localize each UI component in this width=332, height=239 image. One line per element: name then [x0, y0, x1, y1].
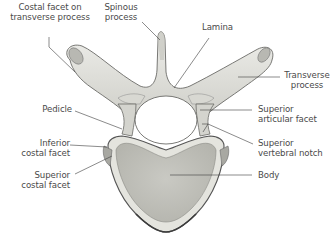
label-superior-articular-facet: Superior articular facet [258, 104, 317, 124]
label-spinous-process: Spinous process [99, 2, 143, 22]
vertebra-diagram: Costal facet on transverse process Spino… [0, 0, 332, 239]
label-transverse-process: Transverse process [283, 70, 331, 90]
label-costal-facet-transverse: Costal facet on transverse process [5, 2, 95, 22]
label-superior-costal-facet: Superior costal facet [10, 170, 70, 190]
label-lamina: Lamina [202, 22, 233, 32]
label-superior-vertebral-notch: Superior vertebral notch [258, 138, 323, 158]
label-pedicle: Pedicle [30, 104, 72, 114]
vertebral-foramen [135, 96, 197, 144]
label-inferior-costal-facet: Inferior costal facet [10, 138, 70, 158]
label-body: Body [258, 170, 279, 180]
vertebral-body [103, 136, 229, 232]
